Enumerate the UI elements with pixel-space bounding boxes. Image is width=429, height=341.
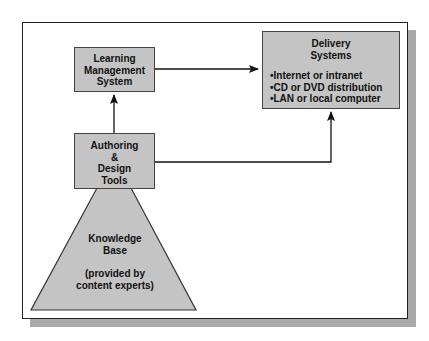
kb-note-line: content experts)	[60, 280, 170, 292]
arrow-authoring-to-delivery	[155, 112, 331, 162]
authoring-label-line: Design	[75, 163, 154, 175]
lms-label-line: System	[75, 76, 154, 88]
kb-note-line: (provided by	[60, 268, 170, 280]
authoring-label-line: &	[75, 152, 154, 164]
delivery-item: LAN or local computer	[270, 93, 399, 105]
authoring-design-tools-box: Authoring & Design Tools	[74, 133, 155, 189]
authoring-label-line: Authoring	[75, 140, 154, 152]
lms-label-line: Learning	[75, 53, 154, 65]
knowledge-base-label: Knowledge Base (provided by content expe…	[60, 233, 170, 291]
delivery-title-line: Systems	[263, 50, 399, 62]
delivery-systems-box: Delivery Systems Internet or intranet CD…	[262, 31, 400, 109]
learning-management-system-box: Learning Management System	[74, 47, 155, 92]
authoring-label-line: Tools	[75, 175, 154, 187]
lms-label-line: Management	[75, 65, 154, 77]
kb-title-line: Knowledge	[60, 233, 170, 245]
kb-title-line: Base	[60, 245, 170, 257]
delivery-item: Internet or intranet	[270, 70, 399, 82]
delivery-item: CD or DVD distribution	[270, 82, 399, 94]
delivery-list: Internet or intranet CD or DVD distribut…	[263, 70, 399, 105]
delivery-title-line: Delivery	[263, 38, 399, 50]
